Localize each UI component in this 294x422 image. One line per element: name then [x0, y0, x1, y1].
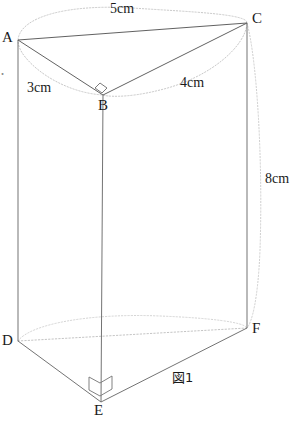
top-circumcircle-guide	[18, 7, 247, 96]
measure-label-BC: 4cm	[180, 76, 204, 90]
figure-caption: 図1	[172, 371, 193, 384]
prism-diagram	[0, 0, 294, 422]
vertex-label-E: E	[94, 403, 103, 418]
vertex-label-D: D	[2, 333, 13, 348]
measure-label-AC: 5cm	[110, 2, 134, 16]
vertex-label-B: B	[98, 98, 108, 113]
vertex-label-F: F	[252, 321, 260, 336]
vertex-label-A: A	[2, 30, 13, 45]
measure-label-AB: 3cm	[27, 81, 51, 95]
cylinder-right-silhouette-guide	[247, 23, 261, 328]
right-angle-marker-E-inner	[89, 376, 112, 383]
edge-A-C	[18, 23, 247, 40]
edge-B-E	[101, 95, 103, 402]
measure-label-CF: 8cm	[265, 172, 289, 186]
bottom-circle-back-arc-guide	[18, 316, 247, 341]
edge-D-F-hidden	[18, 328, 247, 341]
figure-container: A B C D E F 5cm 3cm 4cm 8cm ・ 図1	[0, 0, 294, 422]
edge-E-F	[101, 328, 247, 402]
vertex-label-C: C	[252, 11, 262, 26]
left-margin-fragment: ・	[0, 70, 6, 79]
edge-D-E	[18, 341, 101, 402]
edge-B-C	[103, 23, 247, 95]
